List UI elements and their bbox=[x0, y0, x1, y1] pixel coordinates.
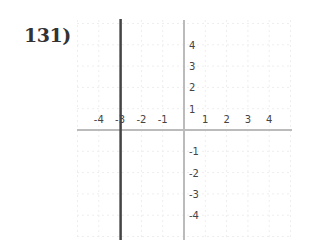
x-tick-label: -4 bbox=[94, 114, 104, 125]
y-tick-label: -1 bbox=[189, 146, 199, 157]
x-tick-label: -1 bbox=[158, 114, 168, 125]
y-tick-label: 1 bbox=[189, 104, 195, 115]
x-tick-label: 4 bbox=[266, 114, 272, 125]
y-tick-label: 4 bbox=[189, 40, 195, 51]
x-tick-label: -2 bbox=[136, 114, 146, 125]
y-tick-label: 3 bbox=[189, 61, 195, 72]
y-tick-label: -2 bbox=[189, 168, 199, 179]
x-tick-label: 2 bbox=[223, 114, 229, 125]
x-tick-label: 3 bbox=[245, 114, 251, 125]
y-tick-label: -4 bbox=[189, 210, 199, 221]
y-tick-label: -3 bbox=[189, 189, 199, 200]
y-tick-label: 2 bbox=[189, 82, 195, 93]
coordinate-plane: -4-3-2-11234 4321-1-2-3-4 bbox=[0, 0, 311, 251]
x-tick-label: 1 bbox=[202, 114, 208, 125]
